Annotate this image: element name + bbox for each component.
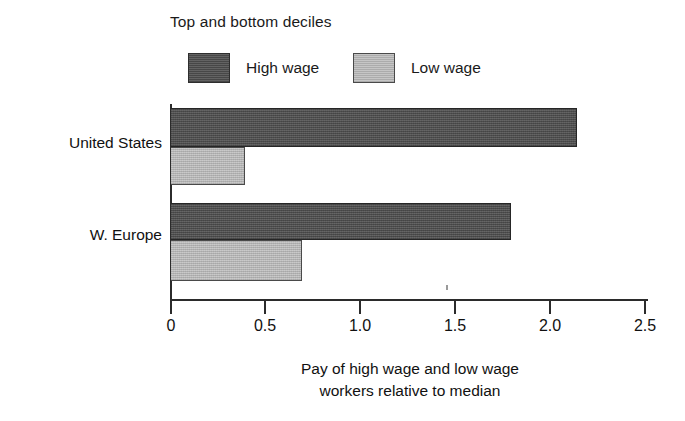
bar-chart: Top and bottom deciles High wage Low wag…	[0, 0, 685, 421]
x-tick-1	[264, 301, 266, 314]
x-tick-label-4: 2.0	[539, 317, 561, 335]
category-label-w-europe: W. Europe	[90, 226, 162, 244]
plot-area: 0 0.5 1.0 1.5 2.0 2.5	[170, 104, 650, 301]
legend-label-high-wage: High wage	[246, 59, 319, 77]
x-tick-3	[454, 301, 456, 314]
x-tick-2	[359, 301, 361, 314]
scan-artifact	[446, 285, 448, 290]
x-tick-label-5: 2.5	[634, 317, 656, 335]
bar-united-states-low-wage	[171, 147, 245, 185]
x-tick-label-3: 1.5	[444, 317, 466, 335]
x-tick-5	[644, 301, 646, 314]
x-axis-title-line-1: Pay of high wage and low wage	[170, 358, 650, 380]
category-label-united-states: United States	[69, 134, 162, 152]
legend-title: Top and bottom deciles	[170, 13, 332, 31]
x-axis-title-line-2: workers relative to median	[170, 380, 650, 402]
legend: High wage Low wage	[188, 52, 608, 84]
legend-swatch-low-wage-icon	[353, 53, 395, 83]
x-axis-line	[170, 299, 648, 301]
legend-item-low-wage: Low wage	[353, 52, 481, 84]
category-axis-labels: United States W. Europe	[0, 0, 162, 421]
bar-w-europe-high-wage	[171, 203, 511, 240]
x-tick-label-1: 0.5	[254, 317, 276, 335]
bar-united-states-high-wage	[171, 108, 577, 147]
legend-label-low-wage: Low wage	[411, 59, 481, 77]
x-axis-title: Pay of high wage and low wage workers re…	[170, 358, 650, 402]
legend-swatch-high-wage-icon	[188, 53, 230, 83]
x-tick-0	[170, 301, 172, 314]
x-tick-label-2: 1.0	[349, 317, 371, 335]
legend-item-high-wage: High wage	[188, 52, 319, 84]
x-tick-4	[549, 301, 551, 314]
x-tick-label-0: 0	[167, 317, 176, 335]
bar-w-europe-low-wage	[171, 240, 302, 281]
